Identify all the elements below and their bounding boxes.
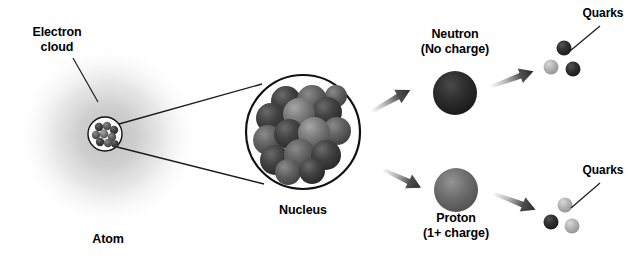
nucleon-small: [95, 123, 103, 131]
diagram-canvas: [0, 0, 638, 263]
arrow-proton-to-quarks: [491, 186, 538, 217]
leader-quarks-neutron: [570, 26, 600, 51]
label-electron-cloud-line2: cloud: [32, 40, 81, 55]
nucleon-small: [96, 138, 104, 146]
quark: [557, 41, 572, 56]
label-proton-charge: (1+ charge): [423, 226, 489, 241]
label-quarks-proton: Quarks: [583, 163, 624, 177]
nucleon-small: [104, 139, 112, 147]
quark: [544, 215, 559, 230]
proton-group: [434, 168, 478, 212]
label-electron-cloud: Electron cloud: [32, 25, 81, 55]
label-neutron-line1: Neutron: [431, 27, 478, 41]
quark: [558, 198, 573, 213]
label-neutron-charge: (No charge): [421, 42, 489, 57]
arrow-nucleus-to-proton: [380, 162, 424, 195]
arrow-neutron-to-quarks: [489, 64, 536, 93]
label-neutron: Neutron (No charge): [421, 27, 489, 57]
label-proton-line1: Proton: [436, 211, 476, 225]
quarks-proton-group: [544, 183, 601, 234]
neutron-sphere: [433, 71, 477, 115]
atom-group: [16, 44, 264, 228]
nucleon-small: [100, 130, 109, 139]
nucleon: [299, 158, 325, 184]
label-atom: Atom: [92, 232, 124, 247]
leader-quarks-proton: [571, 183, 600, 208]
neutron-group: [433, 71, 477, 115]
quark: [544, 60, 559, 75]
arrow-nucleus-to-neutron: [368, 83, 414, 117]
proton-sphere: [434, 168, 478, 212]
nucleon-small: [111, 140, 119, 148]
label-nucleus: Nucleus: [279, 203, 327, 218]
atom-nucleus-small: [88, 117, 122, 151]
nucleus-magnified-group: [246, 75, 360, 189]
quark: [566, 62, 581, 77]
label-quarks-neutron: Quarks: [583, 6, 624, 20]
label-proton: Proton (1+ charge): [423, 211, 489, 241]
nucleon: [275, 159, 301, 185]
label-electron-cloud-line1: Electron: [32, 25, 81, 39]
atom-structure-diagram: Electron cloud Atom Nucleus Neutron (No …: [0, 0, 638, 263]
quarks-neutron-group: [544, 26, 601, 77]
quark: [565, 219, 580, 234]
